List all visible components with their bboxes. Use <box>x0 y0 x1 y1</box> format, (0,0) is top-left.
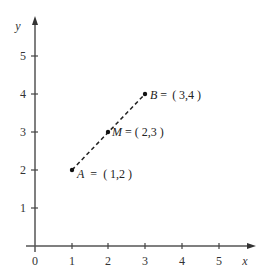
x-tick-label: 2 <box>105 254 111 268</box>
point-a-coords: ( 1,2 ) <box>103 167 132 181</box>
y-tick-label: 5 <box>20 49 26 63</box>
x-tick-label: 5 <box>216 254 222 268</box>
x-tick-label: 1 <box>69 254 75 268</box>
point-m <box>106 130 110 134</box>
origin-label: 0 <box>32 254 38 268</box>
y-axis-arrow-icon <box>32 16 38 25</box>
x-tick-label: 4 <box>179 254 185 268</box>
y-axis-label: y <box>14 19 21 33</box>
x-axis-label: x <box>241 254 248 268</box>
point-a-label: A = ( 1,2 ) <box>76 167 132 181</box>
point-m-equals: = <box>125 125 132 139</box>
y-tick-label: 2 <box>20 163 26 177</box>
coordinate-plane-diagram: 1 2 3 4 5 0 1 2 3 4 5 y x A = ( 1,2 ) M … <box>0 0 269 276</box>
y-tick-label: 4 <box>20 87 26 101</box>
point-b-coords: ( 3,4 ) <box>172 88 201 102</box>
point-m-name: M <box>111 125 123 139</box>
point-b-equals: = <box>160 88 167 102</box>
point-b <box>143 92 147 96</box>
point-a-equals: = <box>90 167 97 181</box>
y-tick-label: 3 <box>20 125 26 139</box>
point-b-name: B <box>150 88 158 102</box>
x-axis-arrow-icon <box>247 243 256 249</box>
point-a <box>70 168 74 172</box>
x-tick-label: 3 <box>142 254 148 268</box>
point-a-name: A <box>76 167 85 181</box>
point-b-label: B = ( 3,4 ) <box>150 88 201 102</box>
point-m-coords: ( 2,3 ) <box>135 125 164 139</box>
point-m-label: M = ( 2,3 ) <box>111 125 164 139</box>
y-tick-label: 1 <box>20 201 26 215</box>
